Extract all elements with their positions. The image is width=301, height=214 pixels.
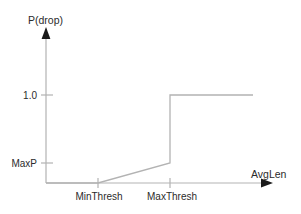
- x-axis-label: AvgLen: [251, 168, 287, 180]
- data-series-drop-probability: [46, 95, 253, 183]
- axes-group: [42, 27, 273, 187]
- x-tick-label-minthresh: MinThresh: [75, 191, 122, 202]
- tick-marks-group: [41, 95, 170, 188]
- y-axis-arrowhead-icon: [42, 27, 51, 39]
- y-axis-label: P(drop): [28, 14, 63, 26]
- drop-probability-curve: [46, 95, 253, 183]
- chart-canvas: P(drop) AvgLen 1.0 MaxP MinThresh MaxThr…: [0, 0, 301, 214]
- x-tick-label-maxthresh: MaxThresh: [147, 191, 197, 202]
- red-drop-probability-chart: P(drop) AvgLen 1.0 MaxP MinThresh MaxThr…: [0, 0, 301, 214]
- y-tick-label-maxp: MaxP: [11, 158, 37, 169]
- labels-group: P(drop) AvgLen 1.0 MaxP MinThresh MaxThr…: [11, 14, 286, 202]
- y-tick-label-1.0: 1.0: [23, 90, 37, 101]
